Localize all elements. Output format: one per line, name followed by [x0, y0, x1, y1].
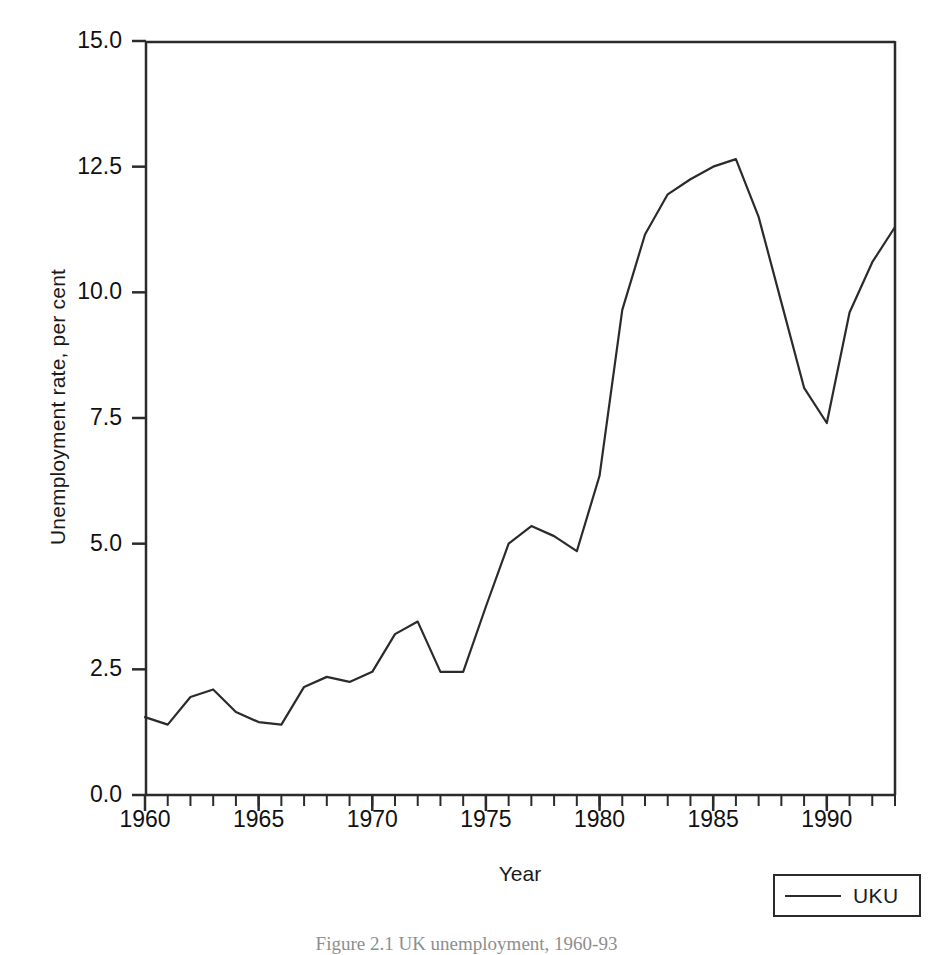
- y-tick-label: 15.0: [30, 29, 122, 52]
- series-line-uku: [145, 159, 895, 725]
- x-tick-label: 1980: [540, 808, 660, 831]
- y-tick-label: 12.5: [30, 155, 122, 178]
- plot-canvas: [145, 41, 897, 797]
- plot-area: [145, 41, 895, 795]
- x-tick-label: 1985: [653, 808, 773, 831]
- x-tick-label: 1990: [767, 808, 887, 831]
- legend-line-swatch: [785, 895, 841, 897]
- x-tick-label: 1965: [199, 808, 319, 831]
- y-axis-tick-labels: 0.02.55.07.510.012.515.0: [18, 41, 122, 795]
- x-tick-label: 1970: [312, 808, 432, 831]
- y-tick-label: 0.0: [30, 783, 122, 806]
- y-tick-label: 2.5: [30, 657, 122, 680]
- legend[interactable]: UKU: [773, 874, 921, 917]
- x-tick-label: 1960: [85, 808, 205, 831]
- y-tick-label: 5.0: [30, 532, 122, 555]
- data-series-group: [145, 159, 895, 725]
- y-tick-label: 10.0: [30, 280, 122, 303]
- legend-label-uku: UKU: [853, 884, 899, 908]
- y-axis-ticks: [132, 41, 146, 795]
- y-tick-label: 7.5: [30, 406, 122, 429]
- figure-caption: Figure 2.1 UK unemployment, 1960-93: [0, 933, 933, 955]
- x-axis-tick-labels: 1960196519701975198019851990: [145, 808, 895, 840]
- x-tick-label: 1975: [426, 808, 546, 831]
